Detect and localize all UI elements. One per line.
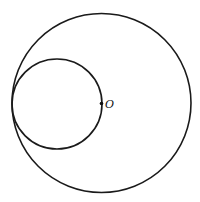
center-point-o [100,102,104,106]
geometry-figure: O [0,0,200,202]
center-label-o: O [105,98,114,111]
inner-circle [12,59,102,149]
